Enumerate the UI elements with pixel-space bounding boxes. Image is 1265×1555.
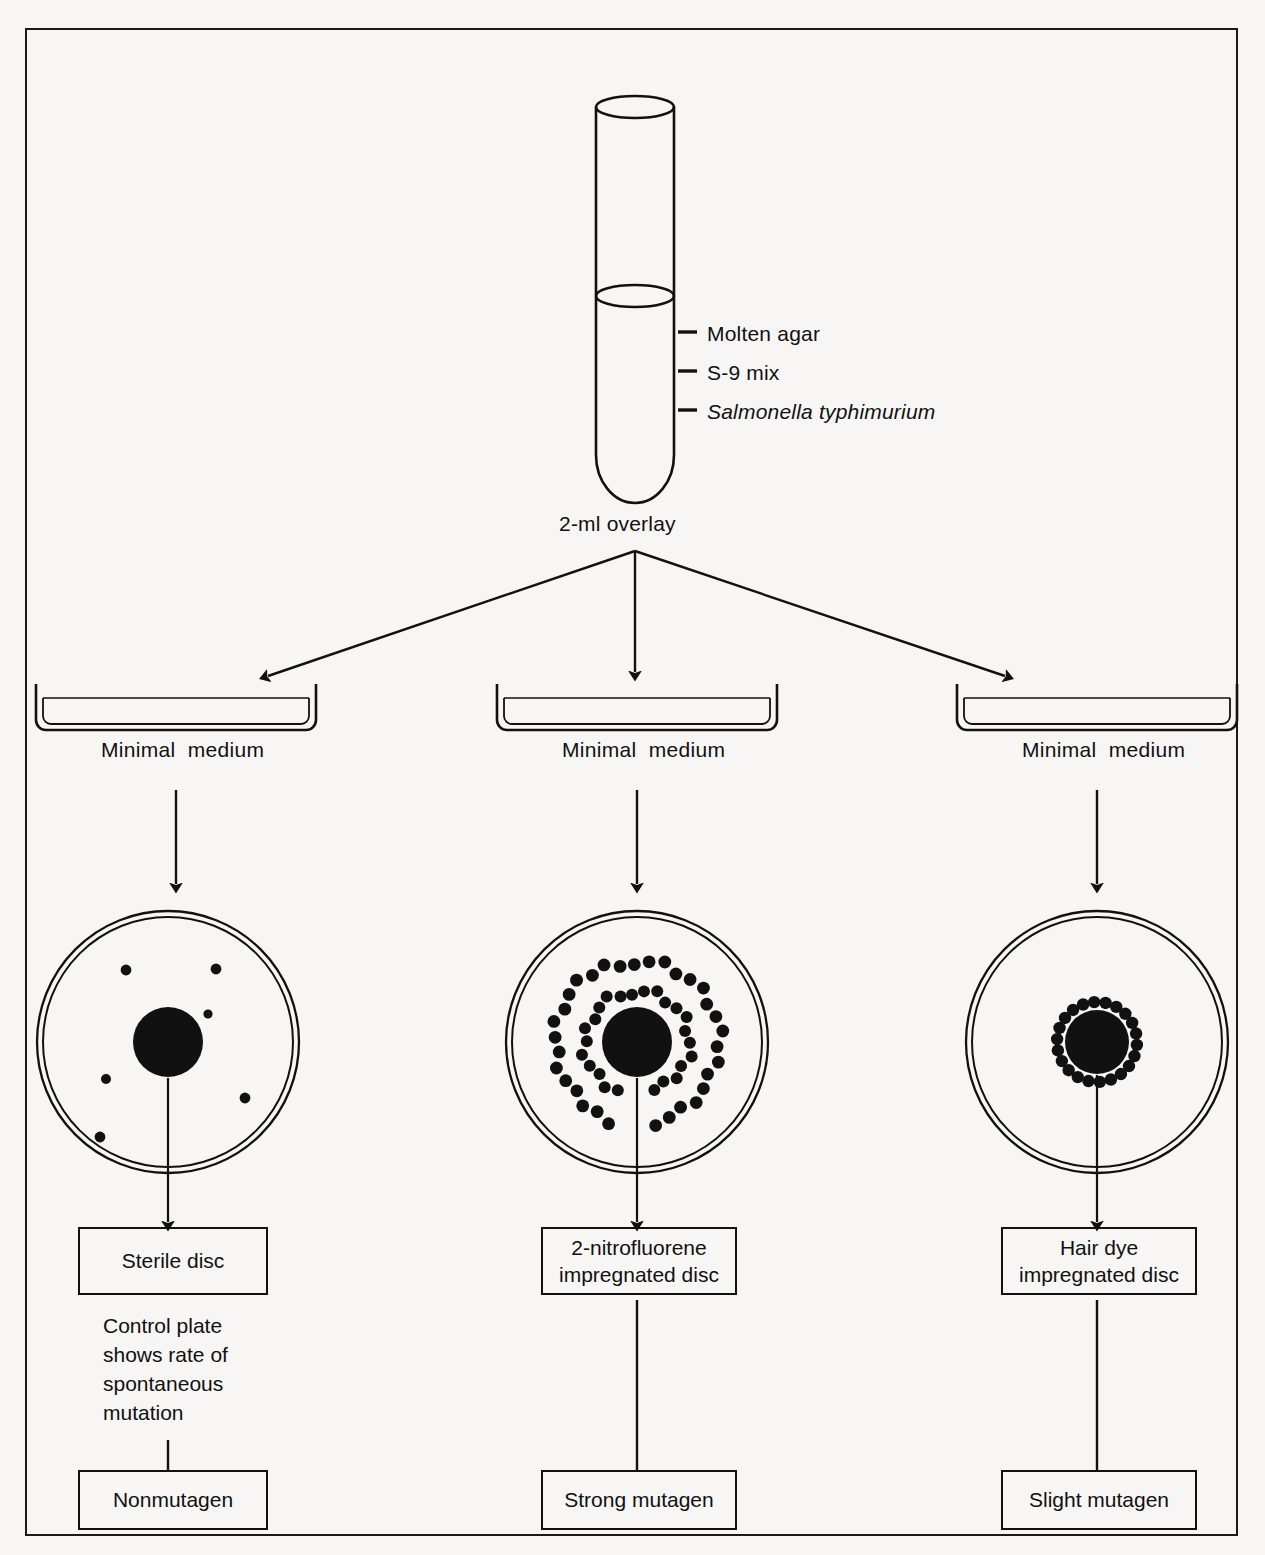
result-box-middle-label: Strong mutagen: [564, 1486, 713, 1513]
disc-box-middle: 2-nitrofluorene impregnated disc: [541, 1227, 737, 1295]
figure-page: Molten agar S-9 mix Salmonella typhimuri…: [0, 0, 1265, 1555]
petri-dish-side-left: [36, 684, 316, 730]
disc-box-middle-label: 2-nitrofluorene impregnated disc: [559, 1234, 719, 1289]
overlay-label: 2-ml overlay: [559, 510, 676, 538]
petri-dish-side-right: [957, 684, 1237, 730]
result-box-right-label: Slight mutagen: [1029, 1486, 1169, 1513]
result-box-left: Nonmutagen: [78, 1470, 268, 1530]
dish-to-plate-arrows: [176, 790, 1097, 884]
disc-box-right-label: Hair dye impregnated disc: [1019, 1234, 1179, 1289]
result-box-left-label: Nonmutagen: [113, 1486, 233, 1513]
minimal-medium-label-right: Minimal medium: [1022, 736, 1185, 764]
branch-arrows: [268, 551, 1005, 676]
tube-content-dashes: [678, 332, 697, 410]
minimal-medium-label-left: Minimal medium: [101, 736, 264, 764]
result-box-right: Slight mutagen: [1001, 1470, 1197, 1530]
plate-to-discbox-arrows: [168, 1075, 1097, 1222]
control-plate-caption: Control plate shows rate of spontaneous …: [103, 1312, 333, 1428]
disc-box-right: Hair dye impregnated disc: [1001, 1227, 1197, 1295]
disc-box-left: Sterile disc: [78, 1227, 268, 1295]
tube-content-label-molten-agar: Molten agar: [707, 320, 820, 348]
result-box-middle: Strong mutagen: [541, 1470, 737, 1530]
test-tube: [596, 96, 674, 503]
tube-content-label-salmonella: Salmonella typhimurium: [707, 398, 936, 426]
tube-content-label-s9-mix: S-9 mix: [707, 359, 780, 387]
minimal-medium-label-middle: Minimal medium: [562, 736, 725, 764]
disc-box-left-label: Sterile disc: [122, 1247, 225, 1274]
petri-dish-side-middle: [497, 684, 777, 730]
